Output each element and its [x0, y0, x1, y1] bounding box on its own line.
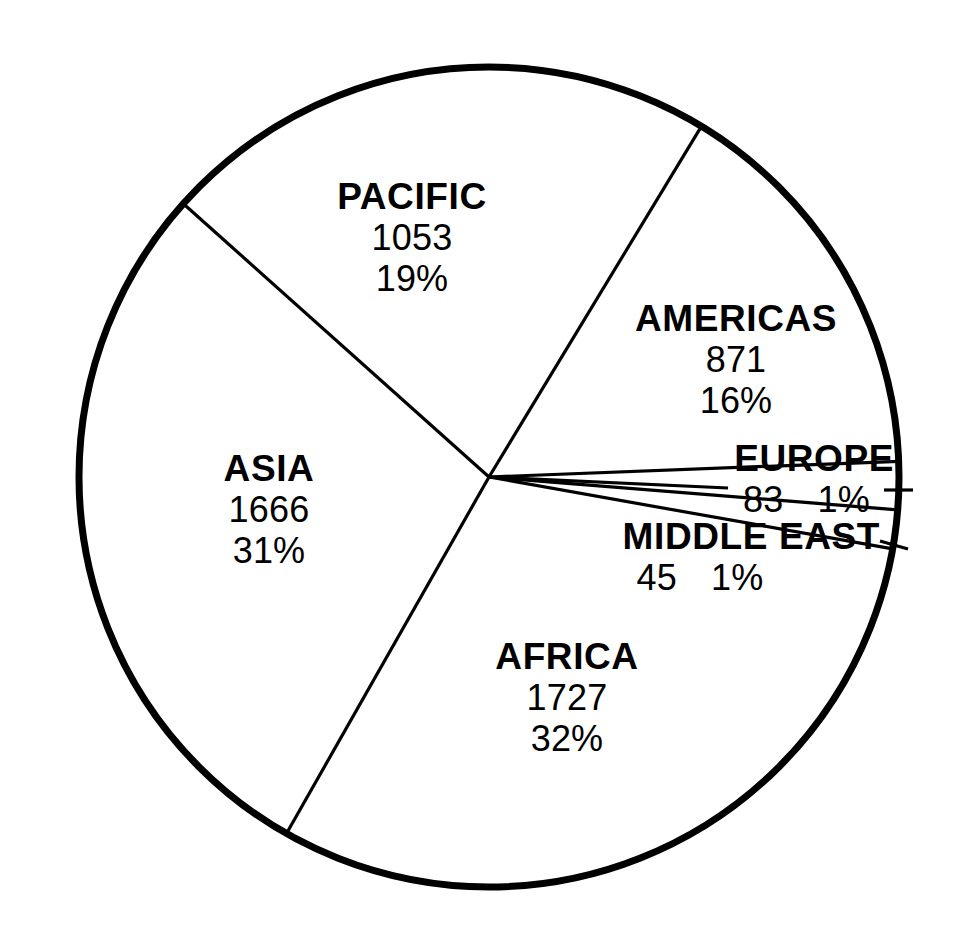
slice-label-middle-east-line: 451% [560, 559, 886, 596]
slice-label-africa-value: 1727 [430, 679, 704, 716]
slice-label-europe-name: EUROPE [600, 440, 900, 478]
slice-label-middle-east-percent: 1% [711, 557, 763, 598]
slice-label-europe: EUROPE 831% [600, 440, 900, 519]
slice-label-europe-value: 83 [743, 479, 783, 520]
slice-label-asia-percent: 31% [160, 532, 378, 569]
slice-label-pacific-percent: 19% [262, 260, 562, 297]
slice-label-americas-percent: 16% [598, 382, 874, 419]
slice-label-americas-name: AMERICAS [598, 300, 874, 338]
slice-label-middle-east-name: MIDDLE EAST [560, 518, 886, 556]
slice-label-europe-line: 831% [600, 481, 900, 518]
slice-label-pacific-name: PACIFIC [262, 178, 562, 216]
slice-label-asia-name: ASIA [160, 450, 378, 488]
pie-chart-figure: PACIFIC 1053 19% AMERICAS 871 16% ASIA 1… [0, 0, 969, 938]
slice-label-asia-value: 1666 [160, 491, 378, 528]
slice-label-americas-value: 871 [598, 341, 874, 378]
slice-label-africa-name: AFRICA [430, 638, 704, 676]
slice-label-middle-east-value: 45 [637, 557, 677, 598]
slice-label-americas: AMERICAS 871 16% [598, 300, 874, 419]
slice-label-africa-percent: 32% [430, 720, 704, 757]
slice-label-europe-percent: 1% [818, 479, 870, 520]
slice-label-pacific: PACIFIC 1053 19% [262, 178, 562, 297]
slice-label-africa: AFRICA 1727 32% [430, 638, 704, 757]
slice-label-asia: ASIA 1666 31% [160, 450, 378, 569]
slice-label-pacific-value: 1053 [262, 219, 562, 256]
slice-label-middle-east: MIDDLE EAST 451% [560, 518, 886, 597]
